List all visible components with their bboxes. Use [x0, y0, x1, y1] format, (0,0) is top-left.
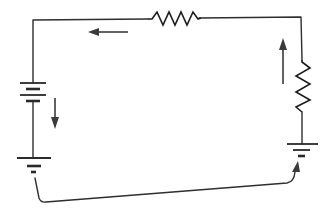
arrow-left-icon [88, 28, 128, 36]
wire-left [33, 19, 148, 83]
circuit-diagram [0, 0, 329, 211]
ground-return-arrow-icon [35, 161, 300, 202]
resistor-right-icon [296, 60, 310, 112]
wire-top-right [199, 17, 302, 60]
arrow-up-icon [279, 38, 287, 84]
resistor-top-icon [148, 12, 201, 25]
ground-left-icon [17, 158, 51, 172]
arrow-down-icon [51, 98, 59, 129]
battery-icon [20, 83, 46, 101]
ground-right-icon [287, 144, 318, 156]
circuit-svg [0, 0, 329, 211]
circuit-wires [33, 17, 302, 158]
